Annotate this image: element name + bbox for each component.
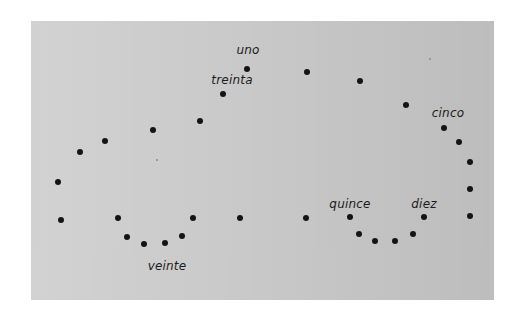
label-diez: diez	[411, 197, 436, 211]
puzzle-dot	[467, 213, 473, 219]
puzzle-dot	[197, 118, 203, 124]
puzzle-dot	[410, 231, 416, 237]
puzzle-dot	[467, 186, 473, 192]
label-quince: quince	[329, 197, 370, 211]
paper-speck	[156, 159, 158, 161]
puzzle-dot	[115, 215, 121, 221]
puzzle-dot	[179, 233, 185, 239]
puzzle-dot	[77, 149, 83, 155]
puzzle-dot	[162, 240, 168, 246]
puzzle-dot	[102, 138, 108, 144]
puzzle-dot	[421, 214, 427, 220]
puzzle-dot	[392, 238, 398, 244]
puzzle-dot	[456, 139, 462, 145]
puzzle-dot	[356, 231, 362, 237]
puzzle-dot	[403, 102, 409, 108]
puzzle-dot	[357, 78, 363, 84]
puzzle-dot	[441, 125, 447, 131]
puzzle-dot	[244, 66, 250, 72]
puzzle-dot	[304, 69, 310, 75]
puzzle-dot	[467, 159, 473, 165]
puzzle-dot	[150, 127, 156, 133]
label-cinco: cinco	[432, 106, 464, 120]
dot-puzzle-panel	[31, 21, 494, 300]
puzzle-dot	[58, 217, 64, 223]
puzzle-dot	[237, 215, 243, 221]
puzzle-dot	[141, 241, 147, 247]
label-veinte: veinte	[148, 259, 187, 273]
paper-speck	[429, 58, 431, 60]
label-uno: uno	[236, 43, 259, 57]
diagram-stage: uno treinta cinco quince diez veinte	[0, 0, 522, 317]
puzzle-dot	[220, 91, 226, 97]
puzzle-dot	[124, 234, 130, 240]
puzzle-dot	[190, 215, 196, 221]
puzzle-dot	[372, 238, 378, 244]
puzzle-dot	[55, 179, 61, 185]
puzzle-dot	[303, 215, 309, 221]
label-treinta: treinta	[211, 73, 252, 87]
puzzle-dot	[347, 214, 353, 220]
